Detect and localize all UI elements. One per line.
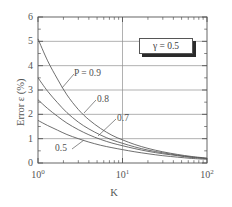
curve-label-p05: 0.5 [55,144,67,154]
curve-label-p08: 0.8 [97,95,109,105]
x-tick-exponent: 1 [126,168,130,176]
y-tick-label-6: 6 [19,12,33,22]
x-tick-label-1e0: 100 [31,170,45,180]
figure-error-vs-k: 0123456 100101102 K Error ε (%) P = 0.9 … [0,0,232,207]
annotation-leader-lines [62,74,116,149]
x-tick-mantissa: 10 [200,169,210,180]
x-tick-label-1e1: 101 [116,170,130,180]
curve-label-p09: P = 0.9 [74,69,101,79]
y-tick-label-5: 5 [19,36,33,46]
x-tick-mantissa: 10 [116,169,126,180]
x-axis-title: K [110,188,118,199]
y-axis-title: Error ε (%) [16,78,27,126]
x-tick-label-1e2: 102 [200,170,214,180]
y-tick-label-1: 1 [19,134,33,144]
curve-label-p07: 0.7 [117,114,129,124]
y-tick-label-0: 0 [19,158,33,168]
y-tick-label-4: 4 [19,61,33,71]
x-tick-mantissa: 10 [31,169,41,180]
x-tick-exponent: 2 [210,168,214,176]
x-tick-exponent: 0 [41,168,45,176]
legend-label-gamma: γ = 0.5 [139,38,193,54]
